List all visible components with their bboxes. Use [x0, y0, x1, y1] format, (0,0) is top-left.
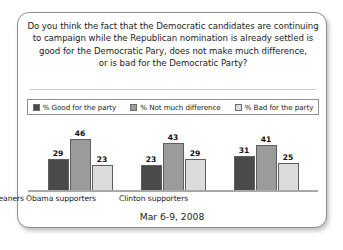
- poll-result-card: Do you think the fact that the Democrati…: [17, 12, 327, 228]
- bar: [234, 156, 255, 191]
- category-label: Total Democrats/leaners: [0, 194, 24, 203]
- legend-item-not-much-difference: % Not much difference: [130, 103, 220, 112]
- bar-value-label: 25: [283, 154, 294, 162]
- bar-value-label: 43: [168, 134, 179, 142]
- bar: [163, 143, 184, 191]
- question-line-1: Do you think the fact that the Democrati…: [26, 20, 320, 32]
- bar-value-label: 29: [53, 150, 64, 158]
- legend-swatch-bad: [235, 104, 242, 111]
- bar: [141, 165, 162, 191]
- chart-baseline-axis: [28, 190, 318, 192]
- question-line-4: or is bad for the Democratic Party?: [26, 57, 320, 69]
- survey-date: Mar 6-9, 2008: [18, 211, 326, 222]
- question-line-2: to campaign while the Republican nominat…: [26, 32, 320, 44]
- bar: [70, 139, 91, 191]
- bar-column: 23: [141, 121, 162, 191]
- header-divider: [30, 89, 316, 90]
- bar: [48, 159, 69, 191]
- legend-swatch-good: [33, 104, 40, 111]
- legend-label-not-much-difference: % Not much difference: [140, 103, 220, 112]
- question-line-3: good for the Democratic Pary, does not m…: [26, 45, 320, 57]
- bar-value-label: 31: [239, 147, 250, 155]
- bar-column: 46: [70, 121, 91, 191]
- bar: [278, 163, 299, 191]
- category-axis-labels: Total Democrats/leanersObama supportersC…: [26, 194, 320, 206]
- category-label: Obama supporters: [26, 194, 96, 203]
- bar: [185, 159, 206, 191]
- bar-value-label: 23: [97, 156, 108, 164]
- bar: [92, 165, 113, 191]
- bar-group: 234329: [139, 121, 207, 191]
- bar-chart-plot: 294623234329314125: [32, 121, 314, 191]
- bar-column: 25: [278, 121, 299, 191]
- bar: [256, 145, 277, 191]
- bar-group: 294623: [46, 121, 114, 191]
- bar-value-label: 29: [190, 150, 201, 158]
- chart-legend: % Good for the party % Not much differen…: [27, 99, 319, 115]
- bar-column: 23: [92, 121, 113, 191]
- bar-column: 29: [185, 121, 206, 191]
- bar-value-label: 46: [75, 130, 86, 138]
- legend-label-good: % Good for the party: [43, 103, 117, 112]
- bar-value-label: 23: [146, 156, 157, 164]
- legend-label-bad: % Bad for the party: [245, 103, 314, 112]
- poll-question: Do you think the fact that the Democrati…: [26, 20, 320, 70]
- legend-swatch-not-much-difference: [130, 104, 137, 111]
- category-label: Clinton supporters: [119, 194, 188, 203]
- bar-value-label: 41: [261, 136, 272, 144]
- bar-column: 43: [163, 121, 184, 191]
- bar-column: 41: [256, 121, 277, 191]
- bar-group: 314125: [232, 121, 300, 191]
- legend-item-bad: % Bad for the party: [235, 103, 314, 112]
- bar-column: 29: [48, 121, 69, 191]
- legend-item-good: % Good for the party: [33, 103, 117, 112]
- bar-column: 31: [234, 121, 255, 191]
